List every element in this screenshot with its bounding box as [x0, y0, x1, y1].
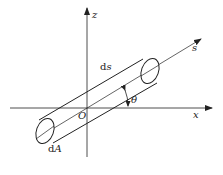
dA-label: dA — [48, 143, 62, 154]
s-axis — [36, 39, 201, 139]
s-axis-label: s — [192, 42, 197, 53]
origin-label: O — [78, 110, 86, 121]
ds-label: ds — [100, 61, 112, 72]
x-axis-label: x — [193, 109, 199, 120]
cylinder-top-edge — [39, 59, 143, 120]
cylinder-bottom-edge — [53, 83, 157, 143]
diagram-canvas: z x s O ds dA θ — [0, 0, 223, 175]
cylinder-end-left-dA — [33, 116, 58, 146]
theta-arc — [125, 90, 128, 106]
theta-label: θ — [131, 94, 137, 105]
z-axis-label: z — [91, 9, 98, 20]
